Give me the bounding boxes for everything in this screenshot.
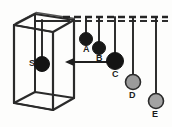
physics-diagram-svg	[0, 0, 172, 127]
box-bottom-face-edge	[14, 92, 74, 110]
ball-label-S: S	[29, 59, 35, 68]
box-inner-edge-lower	[14, 103, 53, 110]
ball-E	[149, 94, 164, 109]
ball-S	[35, 57, 50, 72]
direction-arrow-head	[65, 58, 74, 66]
ball-label-C: C	[112, 70, 119, 79]
ball-label-D: D	[129, 91, 136, 100]
figure-canvas: S A B C D E	[0, 0, 172, 127]
ball-D	[126, 75, 141, 90]
ball-C	[107, 53, 124, 70]
box-inner-edge-upper	[14, 25, 53, 32]
ball-label-B: B	[96, 54, 103, 63]
ball-label-E: E	[152, 110, 158, 119]
ball-label-A: A	[83, 45, 90, 54]
